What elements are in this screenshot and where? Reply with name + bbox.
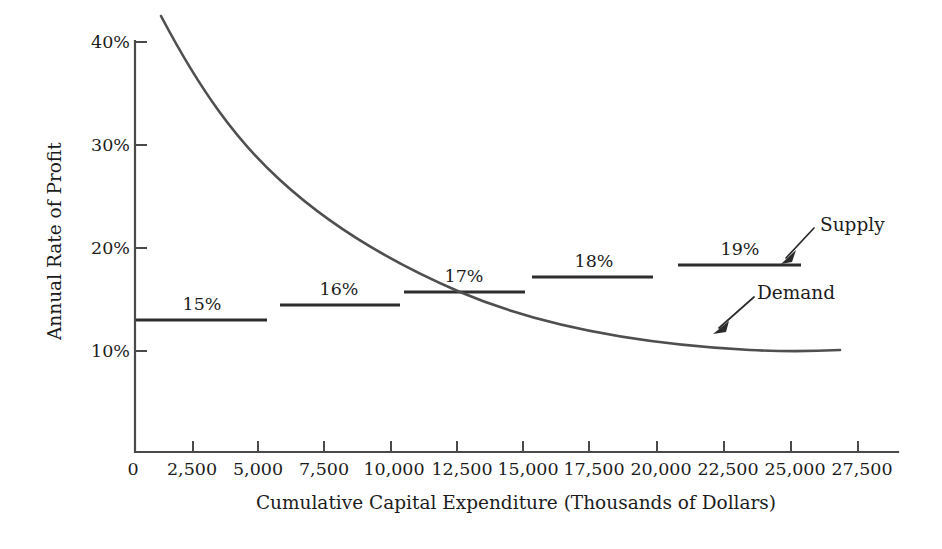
- x-axis-ticks: [135, 441, 858, 452]
- step-label-18: 18%: [575, 253, 614, 271]
- supply-series-label: Supply: [820, 216, 885, 235]
- x-tick-label-0: 0: [127, 461, 138, 479]
- x-tick-label-10000: 10,000: [363, 461, 424, 479]
- x-tick-label-25000: 25,000: [764, 461, 825, 479]
- x-tick-label-27500: 27,500: [831, 461, 892, 479]
- step-label-15: 15%: [183, 296, 222, 314]
- step-label-16: 16%: [320, 281, 359, 299]
- x-tick-label-5000: 5,000: [233, 461, 283, 479]
- y-tick-label-30: 30%: [91, 137, 130, 155]
- y-tick-label-10: 10%: [91, 343, 130, 361]
- x-tick-label-22500: 22,500: [697, 461, 758, 479]
- x-tick-label-17500: 17,500: [563, 461, 624, 479]
- x-tick-label-2500: 2,500: [167, 461, 217, 479]
- supply-annotation-arrow: [781, 228, 814, 264]
- x-tick-label-7500: 7,500: [299, 461, 349, 479]
- y-tick-label-40: 40%: [91, 34, 130, 52]
- x-tick-label-15000: 15,000: [497, 461, 558, 479]
- y-axis-title: Annual Rate of Profit: [46, 142, 65, 340]
- y-tick-label-20: 20%: [91, 240, 130, 258]
- chart-axes: [135, 41, 898, 452]
- y-axis-ticks: [135, 42, 147, 351]
- demand-series-label: Demand: [757, 284, 835, 303]
- supply-demand-chart: 40% 30% 20% 10% 0 2,500 5,000 7,500 10,0…: [0, 0, 942, 549]
- step-label-17: 17%: [445, 268, 484, 286]
- demand-annotation-arrow: [713, 297, 754, 334]
- x-tick-label-12500: 12,500: [431, 461, 492, 479]
- step-label-19: 19%: [721, 241, 760, 259]
- demand-curve: [161, 16, 840, 351]
- x-axis-title: Cumulative Capital Expenditure (Thousand…: [256, 494, 776, 513]
- x-tick-label-20000: 20,000: [630, 461, 691, 479]
